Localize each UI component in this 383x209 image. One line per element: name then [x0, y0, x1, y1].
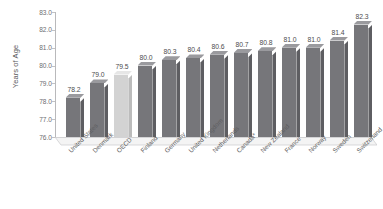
bar-side-face [320, 48, 324, 137]
bar[interactable]: 80.8 [258, 51, 273, 137]
bar-side-face [152, 66, 156, 137]
y-axis-tick-label: 81.0 [26, 44, 52, 51]
y-axis-tick-label: 76.0 [26, 134, 52, 141]
bar-front-face [258, 51, 273, 137]
bar-side-face [200, 58, 204, 137]
bar-side-face [104, 83, 108, 137]
bar-side-face [248, 53, 252, 137]
bar-value-label: 82.3 [355, 13, 368, 20]
bar-value-label: 81.0 [283, 36, 296, 43]
bar-side-face [368, 25, 372, 138]
bar-side-face [224, 55, 228, 137]
bar[interactable]: 81.0 [306, 48, 321, 137]
bar-front-face [186, 58, 201, 137]
y-axis-tick-label: 78.0 [26, 98, 52, 105]
bar[interactable]: 80.4 [186, 58, 201, 137]
bar-value-label: 79.5 [115, 63, 128, 70]
bar[interactable]: 78.2 [66, 98, 81, 137]
y-axis-title: Years of Age [11, 22, 20, 112]
bar-side-face [296, 48, 300, 137]
bar-side-face [176, 60, 180, 137]
y-axis-tick-label: 80.0 [26, 62, 52, 69]
bar[interactable]: 81.4 [330, 41, 345, 137]
bar-value-label: 78.2 [67, 86, 80, 93]
bar-value-label: 80.6 [211, 43, 224, 50]
bar-front-face [354, 25, 369, 138]
bar-value-label: 80.3 [163, 48, 176, 55]
y-axis-tick-label: 79.0 [26, 80, 52, 87]
bar-chart: Years of Age 83.082.081.080.079.078.077.… [0, 0, 383, 209]
bar-value-label: 80.7 [235, 41, 248, 48]
bar-value-label: 81.0 [307, 36, 320, 43]
bar-value-label: 80.0 [139, 54, 152, 61]
bar[interactable]: 80.0 [138, 66, 153, 137]
bar-front-face [306, 48, 321, 137]
bar[interactable]: 79.5 [114, 75, 129, 138]
bar-side-face [128, 75, 132, 138]
y-axis-tick-label: 82.0 [26, 26, 52, 33]
bar-front-face [162, 60, 177, 137]
bar-value-label: 80.8 [259, 39, 272, 46]
y-axis-tick-labels: 83.082.081.080.079.078.077.076.0 [24, 12, 52, 137]
bar-front-face [66, 98, 81, 137]
bar-front-face [138, 66, 153, 137]
y-axis-tick-label: 83.0 [26, 9, 52, 16]
bar-value-label: 79.0 [91, 71, 104, 78]
bar-side-face [272, 51, 276, 137]
bar-front-face [330, 41, 345, 137]
bar-value-label: 80.4 [187, 46, 200, 53]
bar[interactable]: 80.3 [162, 60, 177, 137]
x-axis-category-labels: United StatesDenmarkOECDFinlandGermanyUn… [55, 149, 383, 207]
bar-side-face [344, 41, 348, 137]
bar-front-face [114, 75, 129, 138]
y-axis-tick-label: 77.0 [26, 116, 52, 123]
bar[interactable]: 82.3 [354, 25, 369, 138]
bar-value-label: 81.4 [331, 29, 344, 36]
